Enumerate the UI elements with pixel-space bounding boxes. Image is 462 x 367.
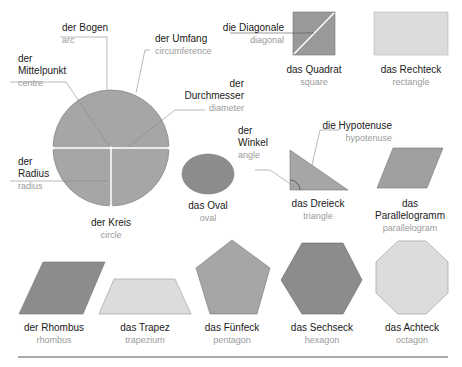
rhombus-shape	[19, 262, 105, 314]
label-triangle: das Dreieck triangle	[292, 198, 345, 222]
label-circle: der Kreis circle	[91, 217, 131, 241]
rectangle-shape	[374, 12, 448, 55]
shapes-diagram	[0, 0, 462, 367]
label-hypotenuse: die Hypotenuse hypotenuse	[323, 120, 393, 144]
label-parallelogram: das Parallelogramm parallelogram	[375, 198, 445, 234]
label-centre: der Mittelpunkt centre	[18, 53, 66, 89]
label-square: das Quadrat square	[286, 64, 341, 88]
label-angle: der Winkel angle	[238, 125, 268, 161]
label-hexagon: das Sechseck hexagon	[291, 322, 353, 346]
hexagon-shape	[281, 243, 362, 314]
pentagon-shape	[196, 240, 270, 314]
label-oval: das Oval oval	[188, 200, 227, 224]
parallelogram-shape	[377, 148, 443, 188]
circle-shape	[51, 90, 170, 208]
label-diameter: der Durchmesser diameter	[185, 78, 244, 114]
label-arc: der Bogen arc	[62, 22, 108, 46]
oval-shape	[182, 154, 234, 194]
label-rectangle: das Rechteck rectangle	[381, 64, 442, 88]
label-trapezium: das Trapez trapezium	[120, 322, 169, 346]
trapezium-shape	[99, 279, 191, 314]
label-pentagon: das Fünfeck pentagon	[205, 322, 259, 346]
label-rhombus: der Rhombus rhombus	[24, 322, 84, 346]
octagon-shape	[376, 241, 448, 314]
label-circumference: der Umfang circumference	[155, 33, 212, 57]
label-octagon: das Achteck octagon	[385, 322, 439, 346]
label-diagonal: die Diagonale diagonal	[223, 22, 284, 46]
label-radius: der Radius radius	[18, 156, 49, 192]
